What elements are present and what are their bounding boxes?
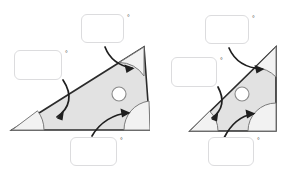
answer-box-left[interactable] bbox=[171, 57, 217, 87]
degree-symbol-left: ° bbox=[220, 57, 223, 64]
degree-symbol-top: ° bbox=[127, 14, 130, 21]
answer-box-top[interactable] bbox=[205, 15, 249, 44]
right-triangle-figure: ° ° ° bbox=[149, 0, 298, 176]
answer-box-bottom[interactable] bbox=[208, 137, 254, 166]
interior-marker-circle bbox=[112, 87, 126, 101]
exercise-canvas: ° ° ° bbox=[0, 0, 298, 176]
answer-box-left[interactable] bbox=[14, 50, 62, 80]
degree-symbol-top: ° bbox=[252, 15, 255, 22]
answer-box-top[interactable] bbox=[81, 14, 124, 43]
left-triangle-figure: ° ° ° bbox=[0, 0, 150, 176]
degree-symbol-bottom: ° bbox=[120, 137, 123, 144]
answer-box-bottom[interactable] bbox=[70, 137, 117, 166]
angle-arc-bottom-left bbox=[12, 111, 44, 130]
degree-symbol-left: ° bbox=[65, 50, 68, 57]
degree-symbol-bottom: ° bbox=[257, 137, 260, 144]
interior-marker-circle bbox=[235, 87, 249, 101]
